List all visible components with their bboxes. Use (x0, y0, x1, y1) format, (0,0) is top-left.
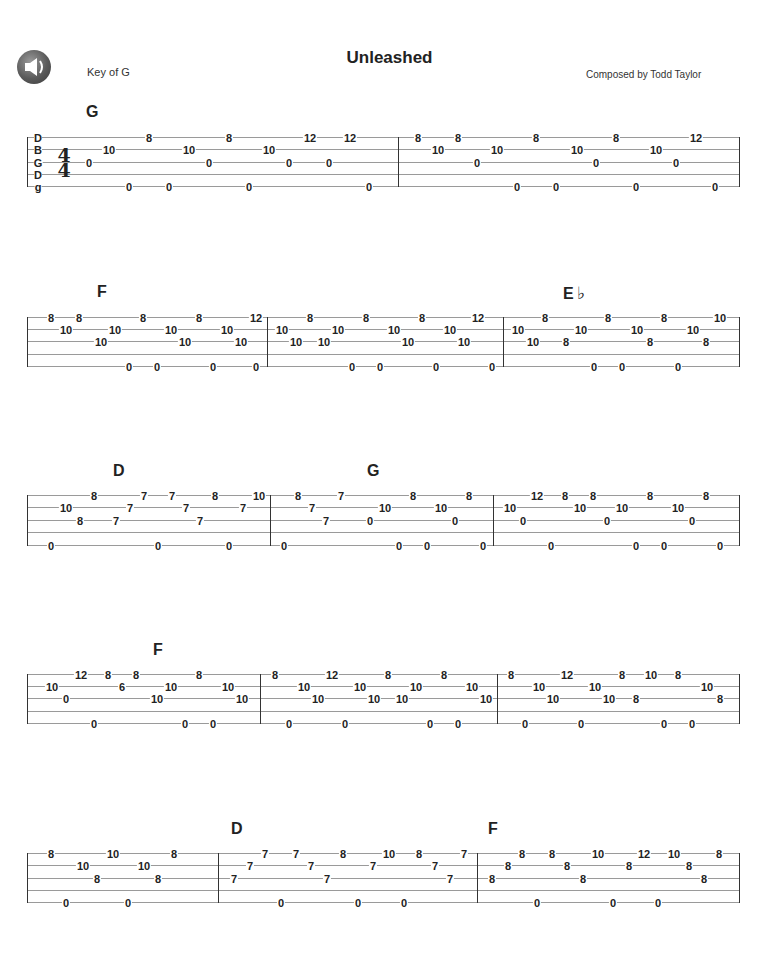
fret-number: 10 (602, 694, 616, 705)
chord-name: F (488, 820, 498, 837)
fret-number: 8 (76, 516, 84, 527)
fret-number: 0 (672, 158, 680, 169)
chord-symbol: F (97, 283, 107, 301)
fret-number: 8 (632, 694, 640, 705)
fret-number: 8 (195, 313, 203, 324)
string-name: D (34, 133, 42, 144)
staff-line (27, 520, 739, 521)
fret-number: 0 (590, 362, 598, 373)
staff-line (27, 711, 739, 712)
fret-number: 10 (490, 145, 504, 156)
fret-number: 0 (473, 158, 481, 169)
fret-number: 8 (90, 491, 98, 502)
chord-symbol: E♭ (563, 283, 585, 304)
fret-number: 8 (339, 849, 347, 860)
fret-number: 7 (182, 503, 190, 514)
fret-number: 6 (118, 682, 126, 693)
fret-number: 10 (700, 682, 714, 693)
fret-number: 8 (604, 313, 612, 324)
fret-number: 0 (252, 362, 260, 373)
fret-number: 8 (384, 670, 392, 681)
fret-number: 10 (297, 682, 311, 693)
chord-symbol: G (367, 462, 379, 480)
barline (503, 317, 504, 367)
fret-number: 0 (454, 719, 462, 730)
fret-number: 8 (715, 849, 723, 860)
chord-name: D (231, 820, 243, 837)
fret-number: 7 (323, 874, 331, 885)
fret-number: 0 (285, 158, 293, 169)
fret-number: 8 (618, 670, 626, 681)
fret-number: 10 (94, 337, 108, 348)
fret-number: 7 (431, 861, 439, 872)
barline (260, 674, 261, 724)
fret-number: 10 (713, 313, 727, 324)
fret-number: 10 (511, 325, 525, 336)
fret-number: 0 (154, 541, 162, 552)
fret-number: 7 (112, 516, 120, 527)
fret-number: 0 (688, 719, 696, 730)
fret-number: 10 (546, 694, 560, 705)
fret-number: 0 (674, 362, 682, 373)
fret-number: 0 (348, 362, 356, 373)
chord-name: E (563, 285, 574, 302)
fret-number: 8 (612, 133, 620, 144)
chord-name: F (97, 283, 107, 300)
fret-number: 8 (409, 491, 417, 502)
fret-number: 8 (47, 849, 55, 860)
fret-number: 10 (574, 325, 588, 336)
fret-number: 10 (59, 325, 73, 336)
fret-number: 7 (261, 849, 269, 860)
fret-number: 0 (716, 541, 724, 552)
fret-number: 8 (507, 670, 515, 681)
fret-number: 0 (577, 719, 585, 730)
fret-number: 10 (331, 325, 345, 336)
fret-number: 0 (400, 898, 408, 909)
staff-line (27, 341, 739, 342)
fret-number: 10 (409, 682, 423, 693)
fret-number: 10 (252, 491, 266, 502)
fret-number: 10 (532, 682, 546, 693)
barline (739, 495, 740, 546)
fret-number: 8 (47, 313, 55, 324)
fret-number: 7 (239, 503, 247, 514)
time-signature-bottom: 4 (57, 161, 70, 180)
key-signature-label: Key of G (87, 66, 130, 78)
fret-number: 8 (660, 313, 668, 324)
fret-number: 0 (153, 362, 161, 373)
staff-line (27, 902, 739, 903)
fret-number: 10 (382, 849, 396, 860)
fret-number: 8 (541, 313, 549, 324)
staff-line (27, 162, 739, 163)
fret-number: 7 (196, 516, 204, 527)
fret-number: 8 (271, 670, 279, 681)
staff-line (27, 317, 739, 318)
chord-name: F (153, 641, 163, 658)
fret-number: 10 (378, 503, 392, 514)
fret-number: 0 (688, 516, 696, 527)
fret-number: 7 (230, 874, 238, 885)
fret-number: 0 (488, 362, 496, 373)
fret-number: 10 (353, 682, 367, 693)
fret-number: 8 (418, 313, 426, 324)
fret-number: 0 (125, 182, 133, 193)
fret-number: 0 (632, 541, 640, 552)
fret-number: 10 (387, 325, 401, 336)
fret-number: 8 (195, 670, 203, 681)
fret-number: 10 (178, 337, 192, 348)
fret-number: 10 (615, 503, 629, 514)
string-name: D (34, 170, 42, 181)
fret-number: 0 (181, 719, 189, 730)
fret-number: 10 (434, 503, 448, 514)
fret-number: 0 (47, 541, 55, 552)
fret-number: 8 (415, 849, 423, 860)
fret-number: 8 (518, 849, 526, 860)
fret-number: 0 (124, 898, 132, 909)
fret-number: 10 (221, 682, 235, 693)
fret-number: 8 (145, 133, 153, 144)
barline (739, 137, 740, 187)
fret-number: 0 (165, 182, 173, 193)
chord-name: G (367, 462, 379, 479)
fret-number: 0 (660, 541, 668, 552)
fret-number: 0 (432, 362, 440, 373)
